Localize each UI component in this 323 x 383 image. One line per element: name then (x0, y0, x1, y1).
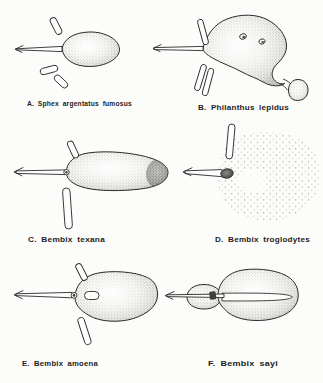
burrow-tunnel-b (154, 46, 203, 50)
side-cell-b (289, 80, 309, 101)
panel-b-label: B. Philanthus lepidus (198, 104, 289, 112)
burrow-tunnel-c (16, 170, 65, 175)
panel-a-label: A. Sphex argentatus fumosus (27, 100, 132, 108)
panel-b: B. Philanthus lepidus (153, 15, 308, 112)
brood-cell-a (62, 32, 120, 67)
panel-e: E. Bembix amoena (14, 263, 158, 367)
panel-d: D. Bembix troglodytes (183, 124, 320, 244)
cocoon (53, 74, 69, 90)
panel-f-label: F. Bembix sayi (208, 360, 278, 368)
panel-a: A. Sphex argentatus fumosus (15, 17, 132, 108)
entrance-knob (64, 170, 69, 175)
entrance-knob (71, 293, 77, 299)
panel-f: F. Bembix sayi (165, 269, 298, 368)
spur-tube (197, 19, 209, 46)
wasp-burrow-figure: A. Sphex argentatus fumosus B. Philanthu… (0, 0, 323, 383)
cocoon (75, 263, 89, 282)
figure-root: A. Sphex argentatus fumosus B. Philanthu… (0, 0, 323, 383)
brood-cell-c (66, 152, 172, 191)
panel-e-label: E. Bembix amoena (22, 360, 98, 367)
cocoon (77, 317, 92, 346)
inner-tunnel (222, 293, 293, 301)
burrow-tunnel-a (16, 46, 62, 51)
sand-cloud-clearing (237, 169, 267, 193)
cocoon (39, 65, 58, 76)
panel-c-label: C. Bembix texana (28, 236, 105, 243)
cocoon (66, 140, 79, 159)
panel-d-label: D. Bembix troglodytes (215, 236, 310, 244)
cocoon (49, 17, 63, 36)
inner-capsule (85, 292, 100, 300)
panel-c: C. Bembix texana (14, 140, 172, 243)
dark-junction-cell (209, 291, 217, 300)
burrow-tunnel-e (16, 292, 72, 297)
vertical-tube (62, 188, 72, 229)
nest-mound-b (203, 15, 287, 86)
